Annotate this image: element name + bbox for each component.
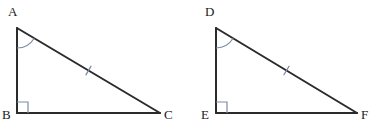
geometry-figure: A B C D E F: [0, 0, 391, 140]
triangle-abc: [17, 28, 160, 113]
triangle-def: [216, 28, 357, 113]
vertex-label-c: C: [164, 108, 173, 121]
triangle-def-angle-arc: [216, 38, 233, 48]
vertex-label-b: B: [2, 108, 11, 121]
geometry-canvas: [0, 0, 391, 140]
vertex-label-d: D: [205, 5, 214, 18]
triangle-abc-angle-arc: [17, 38, 34, 48]
vertex-label-e: E: [201, 108, 209, 121]
triangle-abc-right-angle-mark: [17, 102, 28, 113]
vertex-label-a: A: [8, 5, 17, 18]
vertex-label-f: F: [361, 108, 368, 121]
triangle-def-right-angle-mark: [216, 102, 227, 113]
